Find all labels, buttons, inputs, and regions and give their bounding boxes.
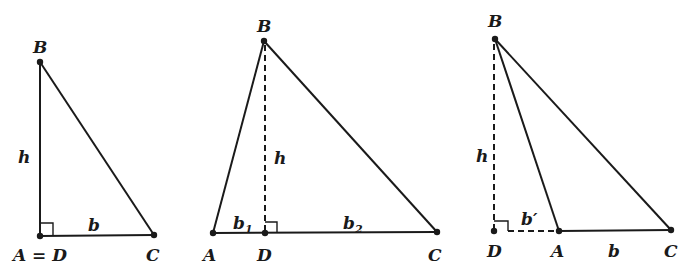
point-B <box>261 38 267 44</box>
label-b2: b2 <box>343 213 363 236</box>
point-C <box>151 232 157 238</box>
triangle-3: B h b′ D A b C <box>476 11 678 261</box>
label-D: D <box>486 241 502 261</box>
label-b1: b1 <box>233 213 253 236</box>
side-AB <box>213 41 264 233</box>
label-b-prime: b′ <box>521 209 538 229</box>
label-D: D <box>256 245 272 265</box>
point-B <box>492 36 498 42</box>
label-C: C <box>146 245 160 265</box>
triangles-diagram: B h b A = D C B h b1 b2 A D C <box>0 0 693 276</box>
point-A <box>210 230 216 236</box>
side-BC <box>264 41 437 232</box>
label-C: C <box>428 245 442 265</box>
point-C <box>434 229 440 235</box>
label-A-equals-D: A = D <box>11 245 67 265</box>
triangle-1: B h b A = D C <box>11 37 160 265</box>
side-AB <box>495 39 559 231</box>
label-B: B <box>256 16 271 36</box>
label-h: h <box>18 147 30 167</box>
side-AC-base <box>559 230 671 231</box>
triangle-2: B h b1 b2 A D C <box>201 16 442 265</box>
label-h: h <box>476 146 488 166</box>
side-AC-base <box>40 235 154 236</box>
label-A: A <box>201 245 216 265</box>
point-A <box>556 228 562 234</box>
label-B: B <box>487 11 502 31</box>
point-D <box>491 228 497 234</box>
point-C <box>668 227 674 233</box>
label-h: h <box>274 148 286 168</box>
side-BC <box>495 39 671 230</box>
label-b: b <box>608 241 620 261</box>
label-B: B <box>32 37 47 57</box>
label-A: A <box>549 241 564 261</box>
side-BC <box>40 62 154 235</box>
point-B <box>37 59 43 65</box>
point-A-D <box>37 233 43 239</box>
label-b: b <box>88 215 100 235</box>
label-C: C <box>664 241 678 261</box>
point-D <box>262 230 268 236</box>
